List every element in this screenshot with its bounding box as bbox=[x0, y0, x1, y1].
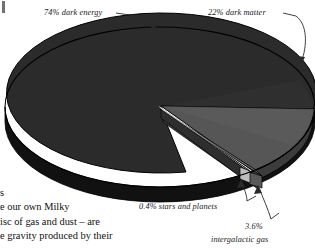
body-text-line: s bbox=[0, 186, 165, 200]
body-text-block: s e our own Milky isc of gas and dust – … bbox=[0, 186, 165, 243]
leader-tail-dark-energy-icon bbox=[116, 13, 130, 15]
body-text-line: e our own Milky bbox=[0, 200, 165, 214]
leader-tail-stars-icon bbox=[247, 196, 256, 201]
body-text-line: e gravity produced by their bbox=[0, 229, 165, 243]
leader-tail-dark-matter-icon bbox=[283, 13, 296, 16]
figure-page: 74% dark energy 22% dark matter 0.4% sta… bbox=[0, 0, 315, 250]
label-dark-matter: 22% dark matter bbox=[208, 8, 266, 17]
leader-tail-igm-icon bbox=[271, 213, 279, 219]
body-text-line: isc of gas and dust – are bbox=[0, 215, 165, 229]
label-intergalactic-gas-percent: 3.6% bbox=[245, 222, 263, 231]
label-dark-energy: 74% dark energy bbox=[44, 8, 102, 17]
label-intergalactic-gas-name: intergalactic gas bbox=[211, 235, 268, 244]
